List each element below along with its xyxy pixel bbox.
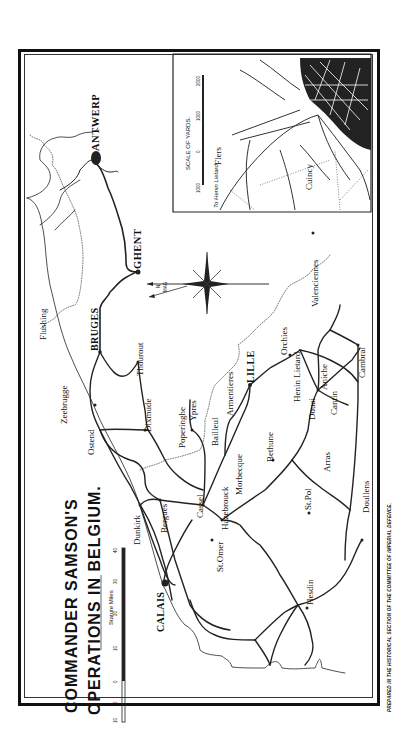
ghent-marker (136, 270, 141, 275)
calais-marker (162, 580, 169, 587)
label-valenciennes: Valenciennes (311, 260, 320, 307)
inset-label-road: To Henin Lietard (213, 164, 219, 208)
inset-scale-tick-1000-left: 1000 (197, 183, 202, 193)
label-morbecque: Morbecque (235, 454, 244, 495)
scale-miles-label: Statute Miles (108, 590, 114, 625)
scale-tick-0: 0 (114, 680, 119, 683)
scale-tick-5: 5 (114, 701, 119, 704)
footer-credit: PREPARED IN THE HISTORICAL SECTION OF TH… (387, 503, 392, 712)
label-poperinghe: Poperinghe (178, 407, 187, 448)
frontier-dutch (30, 135, 83, 330)
label-hesdin: Hesdin (306, 580, 315, 606)
label-cantin: Cantin (330, 391, 339, 415)
label-arras: Arras (323, 452, 332, 472)
label-hazebrouck: Hazebrouck (221, 487, 230, 530)
label-aniche: Aniche (320, 364, 329, 390)
label-douai: Douai (308, 398, 317, 420)
label-bailleul: Bailleul (211, 418, 220, 447)
inset-label-flers: Flers (214, 147, 223, 165)
scale-tick-40: 40 (114, 548, 119, 553)
map-canvas (0, 0, 408, 730)
label-thourout: Thourout (136, 343, 145, 377)
river-to-antwerp (60, 160, 92, 190)
label-cambrai: Cambrai (358, 347, 367, 378)
label-orchies: Orchies (280, 327, 289, 355)
map-title-line1: COMMANDER SAMSON'S (63, 498, 81, 713)
label-st-omer: St.Omer (216, 542, 225, 572)
antwerp-marker (91, 151, 101, 165)
inset-scale-label: SCALE OF YARDS. (185, 117, 191, 170)
label-antwerp: ANTWERP (91, 94, 102, 151)
roads (90, 305, 362, 665)
road-bruges-ghent (100, 272, 138, 352)
label-cassel: Cassel (196, 495, 205, 519)
label-bethune: Bethune (266, 432, 275, 462)
label-calais: CALAIS (156, 592, 166, 632)
label-ostend: Ostend (87, 430, 96, 456)
label-dunkirk: Dunkirk (133, 515, 142, 545)
inset-label-cuincy: Cuincy (305, 164, 314, 190)
scale-tick-30: 30 (114, 579, 119, 584)
scale-bar-miles (101, 548, 125, 722)
scale-tick-10-left: 10 (114, 718, 119, 723)
label-doullens: Doullens (362, 481, 371, 514)
map-title-line2: OPERATIONS IN BELGIUM. (86, 485, 104, 715)
label-bergues: Bergues (160, 504, 169, 533)
scale-bar-yards (202, 75, 204, 185)
inset-scale-tick-0: 0 (197, 150, 202, 153)
label-henin-lietard: Henin Lietard (293, 352, 302, 402)
inset-scale-tick-2000: 2000 (197, 76, 202, 86)
inset-scale-tick-1000: 1000 (197, 111, 202, 121)
label-flushing: Flushing (39, 308, 48, 340)
compass-magnetic-north-label: MAG (164, 282, 169, 292)
label-ypres: Ypres (189, 400, 198, 421)
inset-map (220, 58, 371, 210)
scale-tick-20: 20 (114, 611, 119, 616)
label-dixmude: Dixmude (144, 399, 153, 433)
compass-true-north-label: N (157, 285, 162, 288)
label-st-pol: St.Pol (304, 488, 313, 510)
label-lille: LILLE (246, 350, 256, 383)
label-ghent: GHENT (133, 229, 144, 269)
scale-tick-10: 10 (114, 646, 119, 651)
label-armentieres: Armentieres (226, 372, 235, 416)
label-bruges: BRUGES (90, 307, 100, 351)
label-zeebrugge: Zeebrugge (60, 386, 69, 424)
